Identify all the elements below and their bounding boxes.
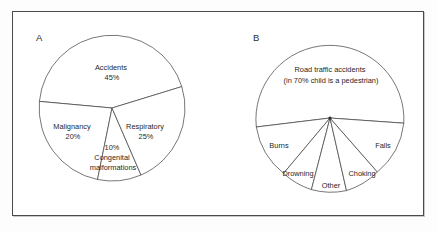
pie-b-label-road-traffic-line1: Road traffic accidents: [295, 65, 366, 74]
pie-a-label-accidents-line1: Accidents: [95, 63, 127, 72]
pie-b-label-road-traffic-line2: (in 70% child is a pedestrian): [284, 76, 379, 85]
pie-a-label-congenital-line2: Congenital: [94, 153, 130, 162]
panel-b: B Road traffic accidents (in 70: [253, 32, 404, 192]
pie-b-label-burns: Burns: [269, 141, 289, 150]
panel-a-letter: A: [36, 32, 43, 43]
pie-a-label-respiratory-line1: Respiratory: [126, 122, 164, 131]
pie-b-slice-road-traffic[interactable]: [256, 45, 404, 127]
pie-b-label-other: Other: [322, 181, 341, 190]
pie-a-label-accidents-line2: 45%: [105, 73, 120, 82]
pie-a-label-congenital-line1: 10%: [105, 143, 120, 152]
panel-a: A Accidents 45% Malignancy 20%: [36, 32, 185, 181]
pie-b-label-choking: Choking: [348, 169, 375, 178]
pie-b-label-drowning: Drowning: [282, 169, 313, 178]
pie-a-label-congenital-line3: malformations: [90, 163, 137, 172]
pie-charts-svg: A Accidents 45% Malignancy 20%: [0, 0, 437, 232]
pie-a-label-malignancy-line2: 20%: [66, 132, 81, 141]
pie-a-label-malignancy-line1: Malignancy: [53, 122, 91, 131]
pie-a-label-respiratory-line2: 25%: [139, 132, 154, 141]
figure-root: A Accidents 45% Malignancy 20%: [0, 0, 437, 232]
pie-b-label-falls: Falls: [375, 141, 391, 150]
pie-b-center-hub: [328, 116, 331, 119]
panel-b-letter: B: [253, 32, 259, 43]
